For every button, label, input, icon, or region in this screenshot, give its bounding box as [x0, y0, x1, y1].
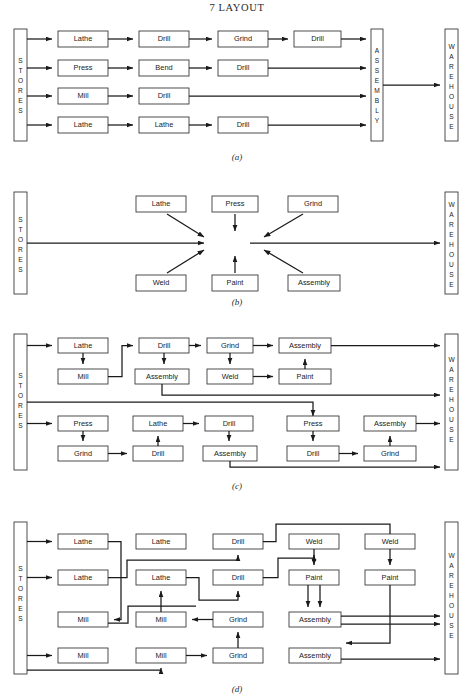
- svg-text:R: R: [18, 595, 23, 602]
- svg-text:U: U: [449, 612, 454, 619]
- svg-text:R: R: [449, 572, 454, 579]
- process-box-label: Lathe: [152, 199, 171, 208]
- svg-text:O: O: [449, 406, 454, 413]
- process-box-label: Grind: [304, 199, 322, 208]
- process-box-label: Lathe: [74, 34, 93, 43]
- process-box-label: Lathe: [74, 120, 93, 129]
- svg-text:W: W: [448, 43, 455, 50]
- svg-text:W: W: [448, 552, 455, 559]
- figure-b-caption: (b): [0, 297, 474, 307]
- process-box-label: Weld: [153, 278, 170, 287]
- stores-bar: [14, 192, 27, 294]
- svg-text:E: E: [18, 256, 23, 263]
- process-box-label: Assembly: [299, 651, 331, 660]
- process-box-label: Lathe: [74, 537, 93, 546]
- figure-a-svg: ST OR ES AS SE MB LY WA RE HO US E Lathe…: [0, 25, 474, 145]
- process-box-label: Grind: [221, 341, 239, 350]
- svg-text:R: R: [18, 87, 23, 94]
- figure-d-svg: ST OR ES WA RE HO US E Lathe Lathe Drill…: [0, 512, 474, 682]
- svg-text:R: R: [18, 402, 23, 409]
- process-box-label: Drill: [158, 34, 171, 43]
- svg-text:A: A: [449, 211, 454, 218]
- svg-text:A: A: [375, 47, 380, 54]
- process-box-label: Assembly: [214, 449, 246, 458]
- process-box-label: Mill: [77, 91, 88, 100]
- figure-d-caption: (d): [0, 684, 474, 694]
- process-box-label: Mill: [77, 615, 88, 624]
- figure-b-bottom-boxes: Weld Paint Assembly: [136, 275, 340, 291]
- figure-c-svg: ST OR ES WA RE HO US E Lathe Drill Grind…: [0, 328, 474, 478]
- process-box-label: Paint: [306, 573, 323, 582]
- svg-text:S: S: [18, 565, 23, 572]
- svg-text:S: S: [449, 622, 454, 629]
- svg-text:H: H: [449, 592, 454, 599]
- svg-text:S: S: [449, 426, 454, 433]
- svg-text:E: E: [449, 436, 454, 443]
- svg-text:L: L: [375, 107, 379, 114]
- figure-b: ST OR ES WA RE HO US E Lathe Press Grind…: [0, 188, 474, 298]
- process-box-label: Paint: [297, 372, 314, 381]
- stores-bar: [14, 29, 27, 141]
- svg-text:U: U: [449, 261, 454, 268]
- svg-text:S: S: [18, 615, 23, 622]
- figure-c: ST OR ES WA RE HO US E Lathe Drill Grind…: [0, 328, 474, 478]
- svg-text:M: M: [374, 87, 380, 94]
- process-box-label: Press: [74, 63, 93, 72]
- svg-text:H: H: [449, 83, 454, 90]
- figure-b-top-boxes: Lathe Press Grind: [136, 196, 338, 212]
- svg-text:E: E: [449, 281, 454, 288]
- svg-text:E: E: [449, 123, 454, 130]
- process-box-label: Press: [304, 419, 323, 428]
- svg-text:H: H: [449, 396, 454, 403]
- svg-text:A: A: [449, 562, 454, 569]
- figure-a-caption: (a): [0, 152, 474, 162]
- svg-text:S: S: [18, 422, 23, 429]
- page-title: 7 LAYOUT: [0, 2, 474, 13]
- svg-text:O: O: [18, 236, 23, 243]
- svg-text:E: E: [449, 386, 454, 393]
- svg-text:B: B: [375, 97, 380, 104]
- process-box-label: Grind: [381, 449, 399, 458]
- process-box-label: Drill: [237, 120, 250, 129]
- process-box-label: Mill: [77, 372, 88, 381]
- figure-a-row-3: Mill Drill: [27, 88, 366, 104]
- process-box-label: Mill: [155, 651, 166, 660]
- figure-a-row-2: Press Bend Drill: [27, 60, 366, 76]
- process-box-label: Assembly: [289, 341, 321, 350]
- svg-text:S: S: [18, 266, 23, 273]
- svg-text:E: E: [449, 73, 454, 80]
- process-box-label: Grind: [229, 651, 247, 660]
- svg-text:O: O: [18, 585, 23, 592]
- svg-text:O: O: [18, 392, 23, 399]
- svg-text:S: S: [375, 57, 380, 64]
- process-box-label: Press: [74, 419, 93, 428]
- figure-a-row-4: Lathe Lathe Drill: [27, 117, 366, 133]
- svg-text:U: U: [449, 103, 454, 110]
- figure-a: ST OR ES AS SE MB LY WA RE HO US E Lathe…: [0, 25, 474, 145]
- svg-text:U: U: [449, 416, 454, 423]
- figure-c-cell-bottom: Press Lathe Drill Press Assembly Grind D…: [27, 416, 440, 467]
- process-box-label: Assembly: [374, 419, 406, 428]
- process-box-label: Grind: [234, 34, 252, 43]
- process-box-label: Drill: [237, 63, 250, 72]
- figure-c-cell-top: Lathe Drill Grind Assembly Mill Assembly…: [27, 338, 440, 395]
- process-box-label: Weld: [222, 372, 239, 381]
- process-box-label: Drill: [158, 341, 171, 350]
- svg-text:R: R: [449, 63, 454, 70]
- process-box-label: Lathe: [155, 120, 174, 129]
- process-box-label: Paint: [382, 573, 399, 582]
- process-box-label: Lathe: [74, 341, 93, 350]
- process-box-label: Assembly: [146, 372, 178, 381]
- process-box-label: Drill: [223, 419, 236, 428]
- process-box-label: Grind: [229, 615, 247, 624]
- svg-text:S: S: [18, 372, 23, 379]
- process-box-label: Bend: [155, 63, 172, 72]
- process-box-label: Drill: [232, 537, 245, 546]
- process-box-label: Drill: [152, 449, 165, 458]
- figure-b-flow-lines: [27, 214, 440, 273]
- svg-text:E: E: [18, 97, 23, 104]
- svg-text:O: O: [18, 77, 23, 84]
- process-box-label: Lathe: [149, 419, 168, 428]
- svg-text:O: O: [449, 251, 454, 258]
- svg-text:A: A: [449, 366, 454, 373]
